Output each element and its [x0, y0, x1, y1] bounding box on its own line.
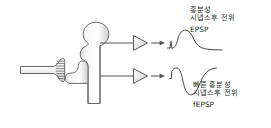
epsp-abbreviation: EPSP [190, 26, 235, 35]
arrow-head-bottom [160, 73, 165, 78]
hollow-triangle-marker-top [134, 36, 148, 51]
axon-terminal [21, 58, 65, 81]
connector-top [100, 36, 165, 51]
arrow-head-top [160, 40, 165, 45]
epsp-label-block: 흥분성 시냅스후 전위 EPSP [190, 6, 235, 35]
axon-terminal-outline [21, 58, 65, 81]
postsynaptic-dendrite [65, 22, 109, 103]
synapse-epsp-figure: 흥분성 시냅스후 전위 EPSP 빠른 흥분성 시냅스후 전위 fEPSP [0, 0, 271, 128]
fepsp-label-line2: 시냅스후 전위 [193, 89, 238, 97]
fepsp-label-block: 빠른 흥분성 시냅스후 전위 fEPSP [193, 81, 238, 110]
epsp-label-line2: 시냅스후 전위 [190, 14, 235, 22]
hollow-triangle-marker-bottom [134, 69, 148, 84]
stubby-spine [65, 61, 88, 83]
connector-bottom [100, 69, 165, 84]
fepsp-abbreviation: fEPSP [193, 101, 238, 110]
